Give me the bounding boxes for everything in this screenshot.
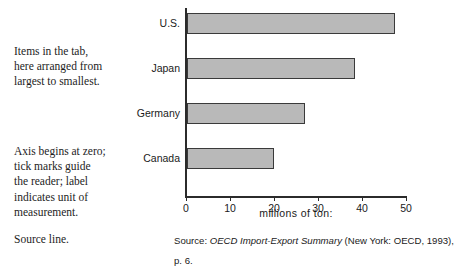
annotation-items: Items in the tab,here arranged fromlarge… xyxy=(14,44,166,90)
x-tick xyxy=(274,196,275,201)
annotation-source-line-text: Source line. xyxy=(14,232,166,247)
annotation-axis-line: Axis begins at zero; xyxy=(14,144,166,159)
x-axis-line xyxy=(185,196,407,198)
annotation-source-line: Source line. xyxy=(14,232,166,247)
source-rest: (New York: OECD, 1993), xyxy=(342,235,454,246)
x-tick xyxy=(362,196,363,201)
source-prefix: Source: xyxy=(174,235,210,246)
source-citation: Source: OECD Import-Export Summary (New … xyxy=(174,233,434,248)
annotation-axis-line: the reader; label xyxy=(14,174,166,189)
x-tick xyxy=(186,196,187,201)
x-tick xyxy=(230,196,231,201)
annotation-axis-line: measurement. xyxy=(14,205,166,220)
annotation-axis-line: tick marks guide xyxy=(14,159,166,174)
annotation-axis: Axis begins at zero;tick marks guidethe … xyxy=(14,144,166,220)
annotation-axis-line: indicates unit of xyxy=(14,190,166,205)
category-label-germany: Germany xyxy=(118,108,180,119)
bar-germany xyxy=(187,103,305,124)
source-title: OECD Import-Export Summary xyxy=(210,235,342,246)
category-label-us: U.S. xyxy=(118,18,180,29)
annotation-items-line: Items in the tab, xyxy=(14,44,166,59)
x-axis-title: millions of ton: xyxy=(185,207,407,219)
source-page: p. 6. xyxy=(174,255,193,266)
x-tick xyxy=(318,196,319,201)
x-tick xyxy=(406,196,407,201)
bar-us xyxy=(187,13,395,34)
bar-canada xyxy=(187,148,274,169)
bar-japan xyxy=(187,58,355,79)
annotation-items-line: here arranged from xyxy=(14,59,166,74)
annotation-items-line: largest to smallest. xyxy=(14,74,166,89)
